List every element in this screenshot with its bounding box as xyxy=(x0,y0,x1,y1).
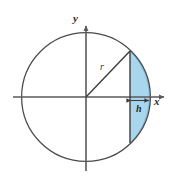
height-label: h xyxy=(136,103,142,114)
figure-canvas: y x r h xyxy=(0,0,172,176)
radius-label: r xyxy=(100,61,104,72)
circle-segment-figure: y x r h xyxy=(0,0,172,176)
radius-line xyxy=(86,51,130,97)
x-axis-label: x xyxy=(153,95,160,107)
y-axis-label: y xyxy=(71,12,78,24)
